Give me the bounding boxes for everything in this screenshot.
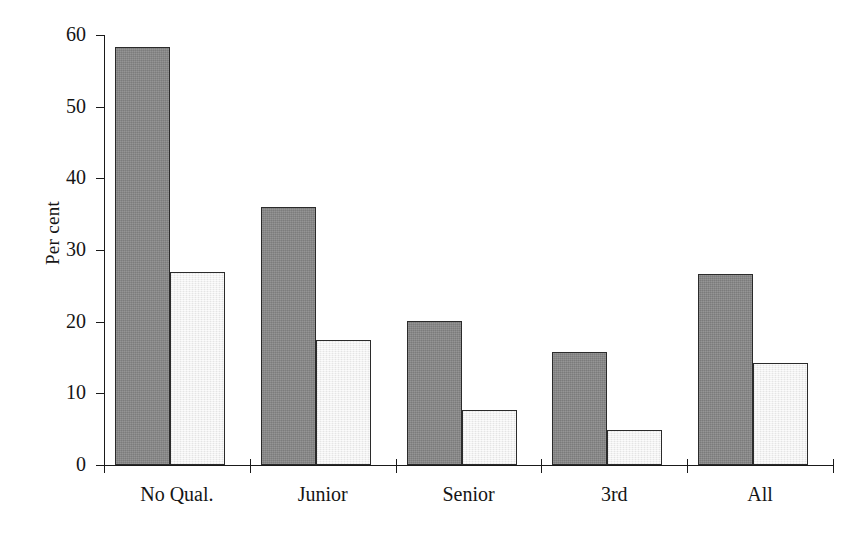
y-tick-label: 30 [40, 239, 86, 259]
bar-series-b-3 [607, 430, 662, 465]
x-axis-line [104, 465, 834, 466]
bar-series-b-2 [462, 410, 517, 465]
bar-series-a-2 [407, 321, 462, 465]
y-tick-label: 40 [40, 167, 86, 187]
y-tick-label: 0 [40, 454, 86, 474]
x-tick-label-4: All [670, 484, 850, 504]
bar-series-b-0 [170, 272, 225, 466]
bar-series-a-3 [552, 352, 607, 465]
plot-area [104, 35, 833, 465]
y-tick-label: 20 [40, 311, 86, 331]
bar-series-b-1 [316, 340, 371, 465]
bar-series-b-4 [753, 363, 808, 465]
bar-series-a-1 [261, 207, 316, 465]
y-tick-label: 10 [40, 382, 86, 402]
bar-chart: Per cent 0102030405060 No Qual.JuniorSen… [0, 0, 863, 536]
bar-series-a-0 [115, 47, 170, 465]
x-tick-mark [833, 459, 834, 473]
y-axis-title: Per cent [42, 173, 64, 293]
bar-series-a-4 [698, 274, 753, 465]
y-tick-label: 50 [40, 96, 86, 116]
y-tick-label: 60 [40, 24, 86, 44]
